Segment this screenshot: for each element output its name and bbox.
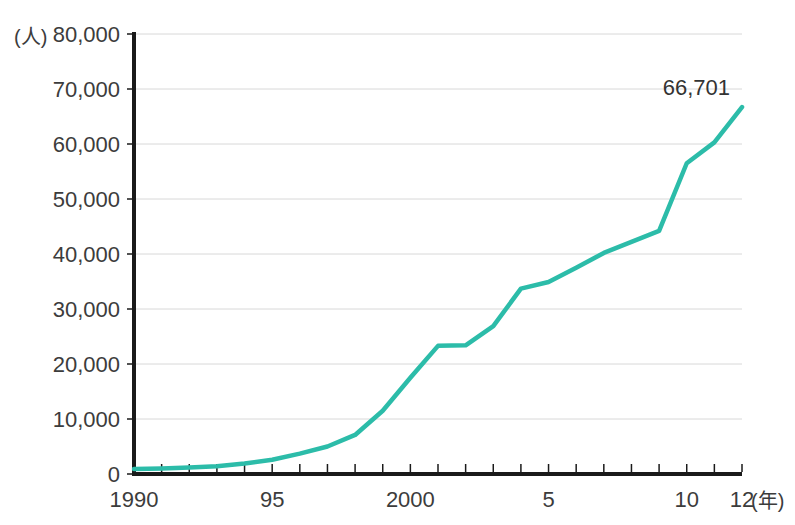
y-tick-label: 40,000 (53, 242, 120, 267)
x-tick-label: 5 (542, 487, 554, 512)
x-axis-unit-label: (年) (751, 490, 784, 512)
chart-canvas: 010,00020,00030,00040,00050,00060,00070,… (0, 0, 795, 525)
line-chart: 010,00020,00030,00040,00050,00060,00070,… (0, 0, 795, 525)
y-tick-label: 30,000 (53, 297, 120, 322)
y-tick-label: 10,000 (53, 407, 120, 432)
x-tick-label: 2000 (386, 487, 435, 512)
x-tick-label: 10 (674, 487, 698, 512)
x-tick-label: 1990 (110, 487, 159, 512)
y-tick-label: 20,000 (53, 352, 120, 377)
y-axis-unit-label: (人) (14, 26, 47, 48)
y-axis-tick-labels: 010,00020,00030,00040,00050,00060,00070,… (53, 22, 120, 487)
y-tick-label: 50,000 (53, 187, 120, 212)
y-tick-label: 60,000 (53, 132, 120, 157)
data-point-label-2012: 66,701 (663, 75, 730, 100)
y-tick-label: 70,000 (53, 77, 120, 102)
x-tick-label: 95 (260, 487, 284, 512)
y-tick-label: 0 (108, 462, 120, 487)
y-tick-label: 80,000 (53, 22, 120, 47)
